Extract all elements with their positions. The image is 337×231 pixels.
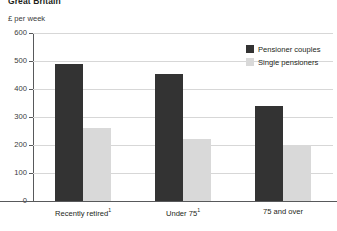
gridline [33,33,333,34]
bar-pensioner-couples [255,106,283,201]
bar-pensioner-couples [155,74,183,201]
y-axis-tick-label: 500 [1,57,27,65]
bottom-rule-divider [0,201,337,202]
bar-single-pensioners [283,145,311,201]
legend-swatch-icon-dark [246,45,254,53]
x-axis-label: 75 and over [223,207,337,216]
y-axis-tick-label: 300 [1,113,27,121]
y-axis-tick-labels: 6005004003002001000 [0,0,27,231]
y-axis-tick-label: 100 [1,169,27,177]
legend-item-pensioner-couples: Pensioner couples [246,44,320,54]
bar-chart: Great Britain £ per week 600500400300200… [0,0,337,231]
bar-single-pensioners [83,128,111,201]
y-axis-tick-label: 400 [1,85,27,93]
bar-pensioner-couples [55,64,83,201]
legend-label: Pensioner couples [258,45,320,54]
chart-legend: Pensioner couples Single pensioners [246,44,320,70]
legend-swatch-icon-light [246,58,254,66]
legend-label: Single pensioners [258,58,318,67]
legend-item-single-pensioners: Single pensioners [246,57,320,67]
bar-single-pensioners [183,139,211,201]
y-axis-tick-label: 200 [1,141,27,149]
y-axis-tick-label: 600 [1,29,27,37]
